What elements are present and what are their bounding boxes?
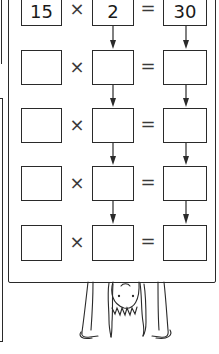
arrow-down-icon <box>110 201 189 224</box>
child-illustration-icon <box>80 282 171 339</box>
down-arrows <box>0 0 219 354</box>
arrow-down-icon <box>110 26 189 49</box>
arrow-down-icon <box>110 85 189 107</box>
arrow-down-icon <box>110 143 189 165</box>
